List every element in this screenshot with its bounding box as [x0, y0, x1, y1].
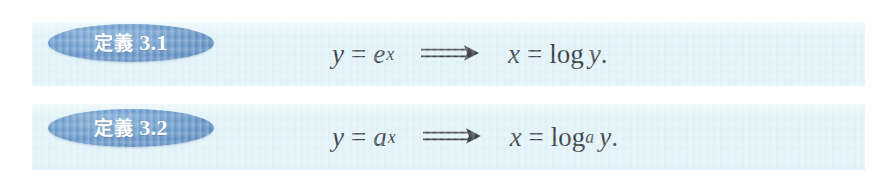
- implies-arrow-icon: [422, 126, 484, 146]
- formula-lhs-equals: =: [351, 41, 366, 68]
- definition-badge-3-1: 定義 3.1: [48, 24, 214, 62]
- definition-band-2: 定義 3.2 y = ax x = logay.: [32, 104, 865, 170]
- formula-lhs-equals: =: [351, 124, 366, 151]
- definition-formula-3-1: y = ex x = logy.: [332, 22, 608, 86]
- formula-rhs-equals: =: [529, 124, 544, 151]
- definition-figure: 定義 3.1 y = ex x = logy. 定義 3.2: [0, 0, 887, 189]
- definition-badge-word: 定義: [94, 119, 133, 138]
- definition-formula-3-2: y = ax x = logay.: [332, 104, 618, 170]
- implies-arrow-icon: [420, 43, 482, 63]
- definition-band-1: 定義 3.1 y = ex x = logy.: [32, 22, 865, 86]
- definition-badge-3-2: 定義 3.2: [48, 109, 214, 147]
- formula-log-argument: y: [589, 41, 601, 68]
- definition-badge-label: 定義 3.1: [94, 32, 167, 54]
- formula-period: .: [611, 124, 618, 151]
- formula-rhs-variable: x: [508, 41, 520, 68]
- formula-exponent-base: e: [373, 41, 385, 68]
- formula-lhs-variable: y: [332, 41, 344, 68]
- definition-badge-label: 定義 3.2: [94, 117, 167, 139]
- formula-rhs-equals: =: [527, 41, 542, 68]
- formula-exponent-base: a: [373, 124, 387, 151]
- formula-log-operator: log: [549, 41, 584, 68]
- definition-badge-word: 定義: [94, 34, 133, 53]
- definition-badge-number: 3.2: [139, 117, 167, 139]
- formula-period: .: [601, 41, 608, 68]
- formula-rhs-variable: x: [510, 124, 522, 151]
- formula-log-argument: y: [599, 124, 611, 151]
- definition-badge-number: 3.1: [139, 32, 167, 54]
- formula-lhs-variable: y: [332, 124, 344, 151]
- formula-log-operator: log: [551, 124, 586, 151]
